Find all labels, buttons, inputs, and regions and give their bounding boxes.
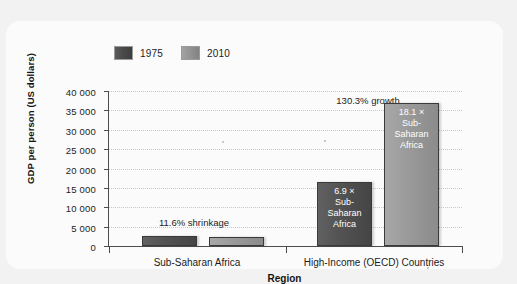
- scan-speck: [324, 140, 326, 142]
- ytick-mark-30000: 30 000: [104, 130, 109, 131]
- ytick-label-15000: 15 000: [66, 183, 96, 194]
- bar-label-line1: 6.9 ×: [334, 186, 354, 197]
- plot-area: 40 000 35 000 30 000 25 000 20 000 15 00…: [108, 91, 462, 247]
- ytick-mark-10000: 10 000: [104, 207, 109, 208]
- ytick-mark-25000: 25 000: [104, 149, 109, 150]
- bar-label-line2: Sub-: [402, 118, 421, 129]
- ytick-mark-35000: 35 000: [104, 110, 109, 111]
- cat-label-sub-saharan-africa: Sub-Saharan Africa: [154, 257, 241, 268]
- bar-label-line2: Sub-: [335, 197, 354, 208]
- bar-label-line4: Africa: [400, 140, 423, 151]
- ytick-mark-40000: 40 000: [104, 91, 109, 92]
- bar-label-line4: Africa: [333, 219, 356, 230]
- legend-swatch-1975: [114, 46, 133, 60]
- legend-label-2010: 2010: [207, 48, 230, 59]
- cat-tick-right: [462, 246, 463, 253]
- ytick-label-35000: 35 000: [66, 106, 96, 117]
- scan-speck: [222, 141, 224, 143]
- ytick-label-40000: 40 000: [66, 87, 96, 98]
- y-axis-title: GDP per person (US dollars): [25, 34, 36, 204]
- ytick-label-20000: 20 000: [66, 164, 96, 175]
- cat-tick-left: [109, 246, 110, 253]
- bar-1975-sub-saharan-africa[interactable]: [142, 236, 197, 246]
- ytick-label-25000: 25 000: [66, 145, 96, 156]
- ytick-label-0: 0: [91, 242, 96, 253]
- legend-swatch-2010: [181, 46, 200, 60]
- x-axis-title: Region: [108, 273, 461, 284]
- ytick-mark-5000: 5 000: [104, 227, 109, 228]
- bar-label-line3: Saharan: [327, 208, 361, 219]
- ytick-label-30000: 30 000: [66, 125, 96, 136]
- ytick-label-10000: 10 000: [66, 203, 96, 214]
- chart-legend: 1975 2010: [114, 46, 230, 60]
- bar-2010-sub-saharan-africa[interactable]: [209, 237, 264, 246]
- bar-1975-high-income-oecd-countries[interactable]: 6.9 × Sub- Saharan Africa: [317, 182, 372, 246]
- ytick-label-5000: 5 000: [71, 222, 96, 233]
- gridline-40000: [109, 91, 462, 92]
- figure-card: 1975 2010 GDP per person (US dollars) 40…: [6, 21, 503, 269]
- legend-entry-1975: 1975: [114, 46, 163, 60]
- cat-label-high-income-oecd-countries: High-Income (OECD) Countries: [304, 257, 445, 268]
- cat-tick-middle: [286, 246, 287, 253]
- ytick-mark-15000: 15 000: [104, 188, 109, 189]
- bar-label-line1: 18.1 ×: [399, 107, 424, 118]
- legend-label-1975: 1975: [140, 48, 163, 59]
- bar-2010-high-income-oecd-countries[interactable]: 18.1 × Sub- Saharan Africa: [384, 103, 439, 246]
- ytick-mark-20000: 20 000: [104, 169, 109, 170]
- scan-speck: [427, 267, 429, 269]
- bar-label-line3: Saharan: [394, 129, 428, 140]
- legend-entry-2010: 2010: [181, 46, 230, 60]
- annotation-shrinkage: 11.6% shrinkage: [159, 217, 229, 228]
